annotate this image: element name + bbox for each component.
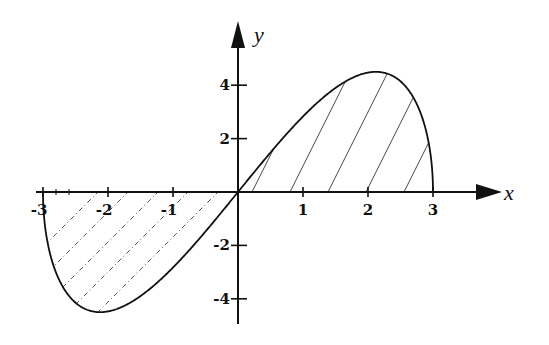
x-axis-arrow-icon — [476, 184, 502, 200]
y-tick-label: 4 — [220, 76, 230, 94]
y-axis-arrow-icon — [231, 21, 245, 48]
x-tick-label: 3 — [428, 201, 438, 219]
hatch-left — [0, 190, 370, 330]
hatch-right — [210, 60, 508, 200]
y-axis-label: y — [252, 22, 264, 47]
x-axis-label: x — [503, 180, 514, 205]
function-plot: x y -3-2-1123 42-2-4 — [0, 0, 549, 345]
y-tick-label: -2 — [213, 236, 230, 254]
x-tick-label: 1 — [298, 201, 308, 219]
x-tick-label: -2 — [96, 201, 113, 219]
x-tick-label: 2 — [363, 201, 373, 219]
y-tick-label: 2 — [220, 130, 230, 148]
x-tick-label: -1 — [161, 201, 178, 219]
y-tick-label: -4 — [213, 290, 230, 308]
